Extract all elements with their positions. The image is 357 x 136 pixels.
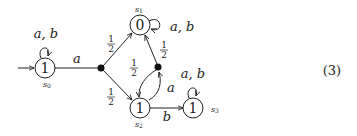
prob-half-1: 1 2 xyxy=(107,34,115,54)
s3-loop-label: a, b xyxy=(181,66,205,81)
state-s3: 1 s3 a, b xyxy=(181,66,219,118)
state-s1-name: s1 xyxy=(135,5,143,14)
svg-text:1: 1 xyxy=(161,40,167,50)
state-s2: 1 s2 xyxy=(130,98,150,129)
state-s1: 0 s1 a, b xyxy=(130,5,194,35)
svg-text:2: 2 xyxy=(131,68,137,78)
prob-half-3: 1 2 xyxy=(160,40,168,60)
prob-half-4: 1 2 xyxy=(130,58,138,78)
svg-text:2: 2 xyxy=(161,50,167,60)
state-s3-name: s3 xyxy=(211,105,219,114)
svg-text:1: 1 xyxy=(131,58,137,68)
edge-label-a-1: a xyxy=(73,51,81,66)
svg-text:1: 1 xyxy=(108,34,114,44)
state-s2-name: s2 xyxy=(135,120,143,129)
automaton-diagram: 1 s0 a, b a 1 2 1 2 0 s1 a, b 1 2 1 xyxy=(0,0,357,136)
svg-text:2: 2 xyxy=(108,44,114,54)
s0-self-loop xyxy=(40,48,49,58)
state-s2-value: 1 xyxy=(136,100,145,116)
edge-label-b: b xyxy=(163,109,171,124)
edge-s2-dist2 xyxy=(149,72,160,100)
svg-text:2: 2 xyxy=(108,97,114,107)
s1-loop-label: a, b xyxy=(170,19,194,34)
state-s0-value: 1 xyxy=(41,60,50,76)
edge-dist2-s2 xyxy=(139,70,156,97)
s3-self-loop xyxy=(188,88,197,98)
equation-number: (3) xyxy=(323,63,341,78)
state-s0: 1 s0 a, b xyxy=(34,26,58,89)
s0-loop-label: a, b xyxy=(34,26,58,41)
svg-text:1: 1 xyxy=(108,87,114,97)
prob-half-2: 1 2 xyxy=(107,87,115,107)
s1-self-loop xyxy=(149,19,160,29)
state-s1-value: 0 xyxy=(136,17,145,33)
distribution-node-2 xyxy=(155,64,162,71)
state-s0-name: s0 xyxy=(43,80,51,89)
edge-dist2-s1 xyxy=(145,35,157,64)
edge-label-a-2: a xyxy=(167,80,175,95)
state-s3-value: 1 xyxy=(189,100,198,116)
